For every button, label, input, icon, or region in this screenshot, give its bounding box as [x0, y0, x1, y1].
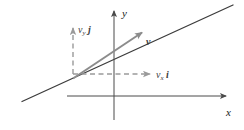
y-axis-label: y — [121, 7, 127, 19]
vector-v-label: v — [146, 36, 151, 47]
vx-component-label: vxi — [156, 69, 169, 82]
vector-v-arrow — [73, 33, 142, 79]
vy-component-label: vyj — [78, 24, 91, 37]
vy-unit: j — [86, 24, 91, 35]
svg-text:vyj: vyj — [78, 24, 91, 37]
figure-canvas: y x v vxi vyj — [0, 0, 244, 130]
vy-sub: y — [81, 29, 86, 37]
vx-unit: i — [166, 69, 169, 80]
svg-text:vxi: vxi — [156, 69, 169, 82]
vector-components-figure: y x v vxi vyj — [0, 0, 244, 130]
line-of-action — [22, 5, 233, 102]
vx-sub: x — [159, 74, 164, 82]
x-axis-label: x — [225, 106, 231, 118]
